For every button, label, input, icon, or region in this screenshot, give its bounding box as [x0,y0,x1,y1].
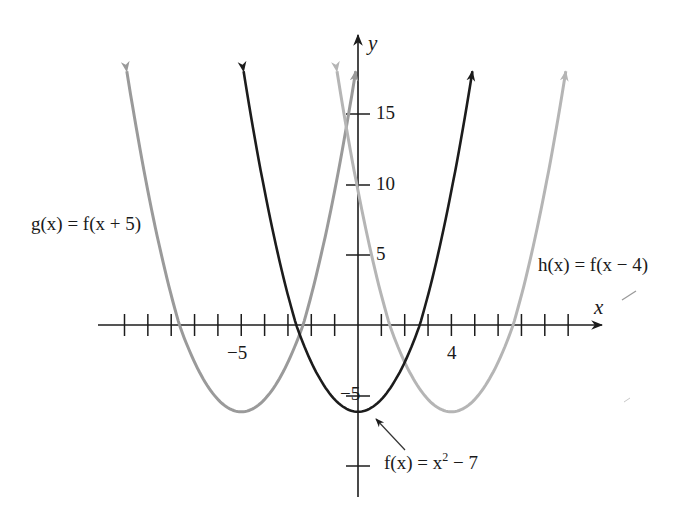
x-tick-label-neg5: −5 [227,342,247,364]
f-label-tail: − 7 [448,452,478,473]
f-function-label: f(x) = x2 − 7 [384,452,478,474]
f-label-pointer-arrow [376,419,405,450]
scan-artifact-mark [624,398,630,402]
h-function-label: h(x) = f(x − 4) [538,254,648,276]
y-tick-label-5: 5 [376,243,386,265]
y-tick-label-10: 10 [376,173,395,195]
x-tick-label-4: 4 [447,342,457,364]
f-label-main: f(x) = x [384,452,442,473]
y-tick-label-neg5: −5 [340,383,360,405]
g-function-label: g(x) = f(x + 5) [31,213,141,235]
y-tick-label-15: 15 [376,102,395,124]
y-axis-label: y [368,31,377,56]
g-function-label-text: g(x) = f(x + 5) [31,213,141,234]
x-axis-label: x [594,295,603,320]
scan-artifact-mark [622,291,636,300]
h-function-label-text: h(x) = f(x − 4) [538,254,648,275]
